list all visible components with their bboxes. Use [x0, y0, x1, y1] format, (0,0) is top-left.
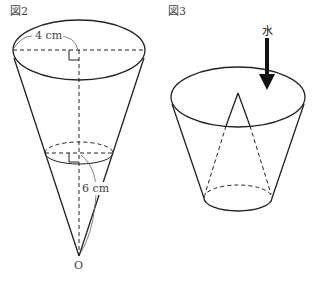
height-label: 6 cm — [82, 182, 109, 195]
figure3-container — [171, 67, 305, 211]
radius-label: 4 cm — [34, 29, 63, 42]
water-arrow-icon — [259, 38, 275, 90]
water-label: 水 — [262, 22, 273, 38]
figures-canvas — [0, 0, 316, 282]
apex-label: O — [74, 259, 83, 272]
figure2-cone — [13, 20, 145, 256]
